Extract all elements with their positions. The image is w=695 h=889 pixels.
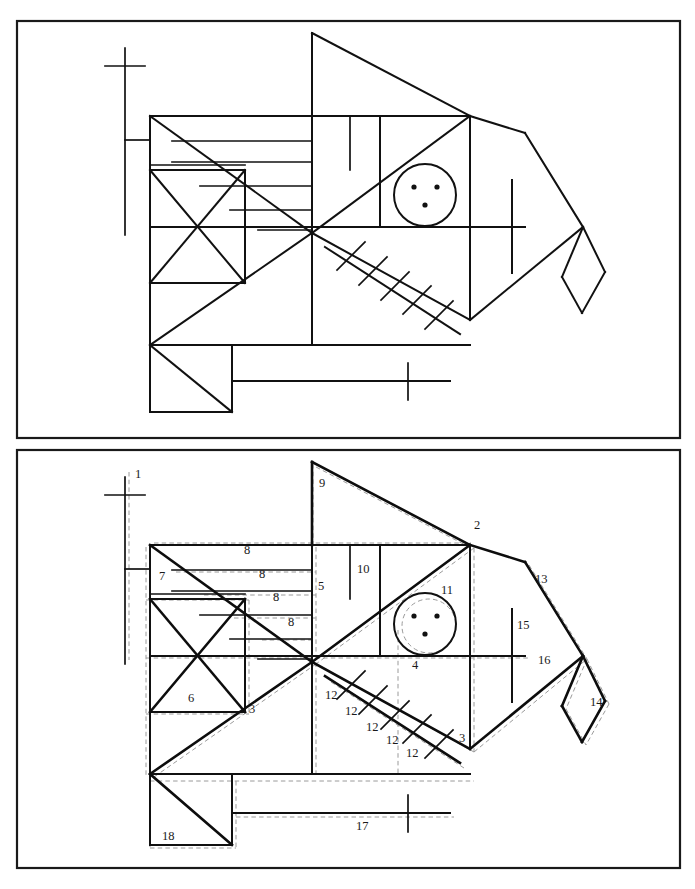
part-label: 1 (135, 467, 141, 481)
technical-drawing-svg: 1 9 2 8 7 8 5 10 13 8 11 15 8 4 16 6 12 … (0, 0, 695, 889)
part-label: 13 (535, 572, 548, 586)
part-label: 3 (459, 731, 465, 745)
part-label: 8 (288, 615, 294, 629)
part-label: 12 (345, 704, 358, 718)
part-label: 9 (319, 476, 325, 490)
part-label: 12 (406, 746, 419, 760)
part-label: 14 (590, 695, 603, 709)
b-eye-dot-left (411, 613, 416, 618)
part-label: 4 (412, 658, 419, 672)
part-label: 10 (357, 562, 370, 576)
part-label: 16 (538, 653, 551, 667)
part-label: 15 (517, 618, 530, 632)
part-label: 17 (356, 819, 369, 833)
part-label: 12 (366, 720, 379, 734)
eye-dot-bottom (422, 202, 427, 207)
part-label: 12 (325, 688, 338, 702)
eye-dot-right (434, 184, 439, 189)
b-eye-dot-bottom (422, 631, 427, 636)
part-label: 3 (249, 702, 255, 716)
part-label: 18 (162, 829, 175, 843)
part-label: 6 (188, 691, 194, 705)
part-label: 8 (259, 567, 265, 581)
part-label: 8 (244, 543, 250, 557)
part-label: 7 (159, 569, 165, 583)
figure-root: 1 9 2 8 7 8 5 10 13 8 11 15 8 4 16 6 12 … (0, 0, 695, 889)
part-label: 12 (386, 733, 399, 747)
eye-dot-left (411, 184, 416, 189)
part-label: 8 (273, 590, 279, 604)
part-label: 11 (441, 583, 453, 597)
part-label: 5 (318, 579, 324, 593)
part-label: 2 (474, 518, 480, 532)
b-eye-dot-right (434, 613, 439, 618)
